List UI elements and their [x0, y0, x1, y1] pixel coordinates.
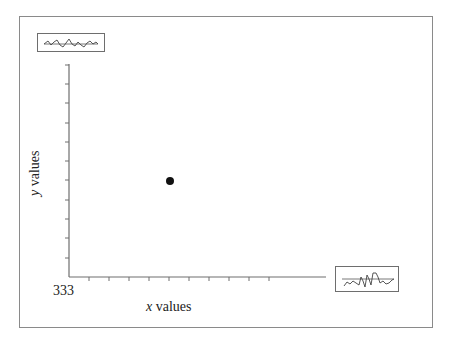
bottom-right-sparkline-inset	[335, 266, 399, 292]
y-axis-label-text: values	[27, 151, 42, 190]
data-point	[166, 177, 174, 185]
y-axis-label: y values	[27, 136, 47, 196]
y-axis-label-var: y	[27, 190, 42, 196]
x-axis-label-text: values	[152, 299, 191, 314]
x-origin-tick-label: 333	[53, 283, 74, 299]
sparkline-icon	[38, 34, 106, 53]
x-axis-label: x values	[146, 299, 191, 315]
top-left-sparkline-inset	[37, 33, 105, 52]
sparkline-icon	[336, 267, 400, 293]
